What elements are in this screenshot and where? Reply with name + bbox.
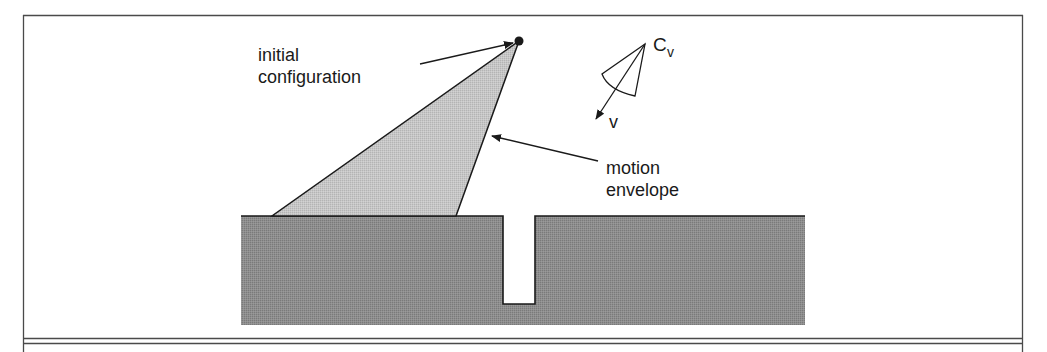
velocity-cone [596, 44, 645, 119]
velocity-label: v [609, 112, 618, 132]
motion-envelope-arrow [492, 136, 598, 161]
initial-configuration-label-line2: configuration [258, 67, 361, 87]
figure-frame [23, 15, 1023, 352]
motion-envelope-diagram: initial configuration motion envelope C … [0, 0, 1047, 352]
motion-envelope-label-line1: motion [606, 158, 660, 178]
cone-label-subscript-v: v [667, 44, 674, 60]
cone-label-c: C [653, 34, 667, 55]
cone-outline-icon [602, 44, 645, 96]
motion-envelope-label-line2: envelope [606, 180, 679, 200]
initial-configuration-point [515, 37, 524, 46]
initial-configuration-label-line1: initial [258, 45, 299, 65]
ground-obstacle [241, 216, 805, 325]
